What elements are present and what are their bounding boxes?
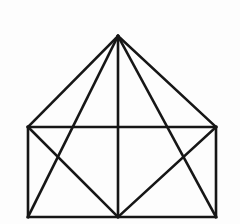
- lower-diagonal-right: [118, 127, 216, 217]
- geometric-figure-svg: [0, 0, 240, 224]
- figure-canvas: [0, 0, 240, 224]
- roof-right-edge: [118, 36, 216, 127]
- figure-outline-group: [28, 36, 216, 217]
- lower-diagonal-left: [28, 127, 118, 217]
- roof-left-edge: [28, 36, 118, 127]
